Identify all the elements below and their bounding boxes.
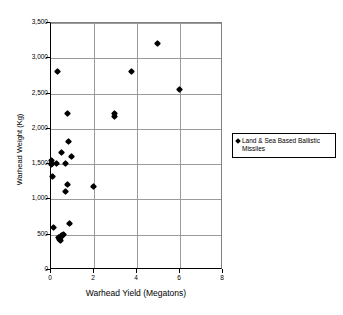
x-tick-mark xyxy=(50,269,51,273)
gridline-horizontal xyxy=(51,164,221,165)
x-tick-label: 4 xyxy=(126,274,146,282)
x-tick-mark xyxy=(179,269,180,273)
y-tick-label: 500 xyxy=(37,230,48,237)
y-axis-title: Warhead Weight (Kg) xyxy=(15,90,24,210)
gridline-horizontal xyxy=(51,129,221,130)
legend-diamond-icon xyxy=(235,138,241,144)
x-tick-label: 8 xyxy=(212,274,232,282)
gridline-vertical xyxy=(94,23,95,268)
gridline-horizontal xyxy=(51,94,221,95)
gridline-horizontal xyxy=(51,58,221,59)
y-tick-label: 2,500 xyxy=(32,89,48,96)
x-tick-label: 2 xyxy=(83,274,103,282)
y-tick-label: 0 xyxy=(44,265,48,272)
y-tick-label: 1,500 xyxy=(32,159,48,166)
gridline-horizontal xyxy=(51,235,221,236)
x-tick-label: 0 xyxy=(40,274,60,282)
y-tick-label: 3,500 xyxy=(32,18,48,25)
legend-item-label: Land & Sea Based Ballistic Missiles xyxy=(242,137,332,153)
x-axis-title: Warhead Yield (Megatons) xyxy=(50,288,222,298)
plot-area xyxy=(50,22,222,269)
x-tick-label: 6 xyxy=(169,274,189,282)
y-tick-label: 3,000 xyxy=(32,53,48,60)
gridline-horizontal xyxy=(51,23,221,24)
y-tick-label: 1,000 xyxy=(32,194,48,201)
x-tick-mark xyxy=(93,269,94,273)
chart-legend: Land & Sea Based Ballistic Missiles xyxy=(232,133,336,158)
y-tick-label: 2,000 xyxy=(32,124,48,131)
scatter-chart: 05001,0001,5002,0002,5003,0003,500 02468… xyxy=(0,0,343,315)
gridline-vertical xyxy=(137,23,138,268)
gridline-vertical xyxy=(180,23,181,268)
gridline-horizontal xyxy=(51,199,221,200)
x-tick-mark xyxy=(136,269,137,273)
x-tick-mark xyxy=(222,269,223,273)
